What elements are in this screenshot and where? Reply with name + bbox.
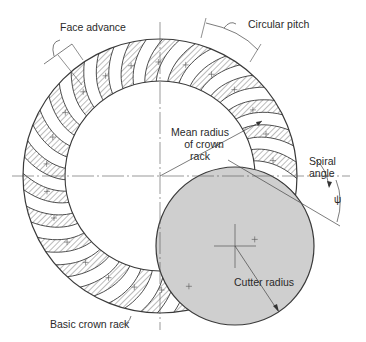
label-mean-radius-3: rack — [180, 150, 220, 162]
label-mean-radius-2: of crown — [176, 138, 232, 150]
label-circular-pitch: Circular pitch — [248, 18, 309, 30]
label-angle: angle — [309, 167, 335, 179]
label-mean-radius-1: Mean radius — [168, 126, 232, 138]
crown-rack-diagram: Face advance Circular pitch Mean radius … — [0, 0, 366, 342]
rack-tooth — [32, 230, 96, 253]
label-cutter-radius: Cutter radius — [234, 276, 294, 288]
rack-tooth — [224, 100, 288, 123]
label-spiral: Spiral — [309, 155, 336, 167]
rack-tooth — [121, 35, 149, 94]
rack-tooth — [71, 56, 98, 120]
label-psi: ψ — [334, 194, 341, 206]
label-basic-crown-rack: Basic crown rack — [50, 318, 129, 330]
rack-tooth — [96, 42, 116, 105]
label-face-advance: Face advance — [60, 21, 126, 33]
